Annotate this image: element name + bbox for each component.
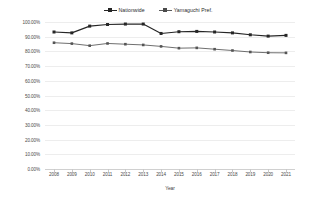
data-point-marker [213,48,216,51]
y-axis-tick-label: 90.00% [25,34,40,39]
x-axis-tick-label: 2021 [281,172,291,177]
data-point-marker [249,33,252,36]
x-axis-title: Year [45,186,295,191]
x-axis-tick-label: 2017 [210,172,220,177]
data-point-marker [231,49,234,52]
y-axis-tick-label: 100.00% [23,20,40,25]
y-axis-tick-label: 70.00% [25,64,40,69]
series-layer [45,22,295,169]
legend-item-yamaguchi-pref[interactable]: Yamaguchi Pref. [159,7,213,14]
data-point-marker [106,42,109,45]
data-point-marker [88,25,91,28]
data-point-marker [106,23,109,26]
x-axis-tick-label: 2018 [228,172,238,177]
data-point-marker [178,47,181,50]
data-point-marker [124,23,127,26]
data-point-marker [267,51,270,54]
data-point-marker [231,31,234,34]
data-point-marker [195,30,198,33]
x-axis-tick-label: 2016 [192,172,202,177]
x-axis-tick-label: 2013 [138,172,148,177]
data-point-marker [213,30,216,33]
y-axis-tick-label: 50.00% [25,93,40,98]
legend-label: Nationwide [119,7,145,14]
y-axis-tick-label: 30.00% [25,122,40,127]
x-axis-tick-label: 2015 [174,172,184,177]
data-point-marker [285,34,288,37]
data-point-marker [142,23,145,26]
data-point-marker [71,42,74,45]
y-axis-tick-label: 0.00% [27,167,40,172]
x-axis-tick-label: 2019 [245,172,255,177]
x-axis-tick-label: 2011 [103,172,112,177]
legend-marker-icon [104,7,117,14]
series-nationwide [53,23,288,38]
data-point-marker [124,43,127,46]
x-axis-tick-label: 2020 [263,172,273,177]
data-point-marker [195,47,198,50]
x-axis-tick-label: 2008 [49,172,59,177]
x-axis-tick-label: 2010 [85,172,95,177]
data-point-marker [160,45,163,48]
grid-line [45,169,295,170]
data-point-marker [285,52,288,55]
line-chart: Nationwide Yamaguchi Pref. 100.00%90.00%… [0,0,316,209]
data-point-marker [249,51,252,54]
legend-label: Yamaguchi Pref. [174,7,213,14]
legend-item-nationwide[interactable]: Nationwide [104,7,145,14]
series-yamaguchi-pref [53,41,288,54]
x-axis-tick-labels: 2008200920102011201220132014201520162017… [45,172,295,182]
data-point-marker [160,32,163,35]
plot-area [45,22,295,169]
y-axis-tick-label: 20.00% [25,137,40,142]
data-point-marker [53,41,56,44]
data-point-marker [267,35,270,38]
y-axis-tick-labels: 100.00%90.00%80.00%70.00%60.00%50.00%40.… [0,22,43,169]
data-point-marker [88,44,91,47]
y-axis-tick-label: 40.00% [25,108,40,113]
y-axis-tick-label: 80.00% [25,49,40,54]
x-axis-tick-label: 2012 [120,172,130,177]
y-axis-tick-label: 10.00% [25,152,40,157]
x-axis-tick-label: 2014 [156,172,166,177]
chart-legend: Nationwide Yamaguchi Pref. [0,4,316,16]
x-axis-tick-label: 2009 [67,172,77,177]
data-point-marker [177,30,180,33]
data-point-marker [53,30,56,33]
data-point-marker [70,31,73,34]
y-axis-tick-label: 60.00% [25,78,40,83]
data-point-marker [142,44,145,47]
legend-marker-icon [159,7,172,14]
